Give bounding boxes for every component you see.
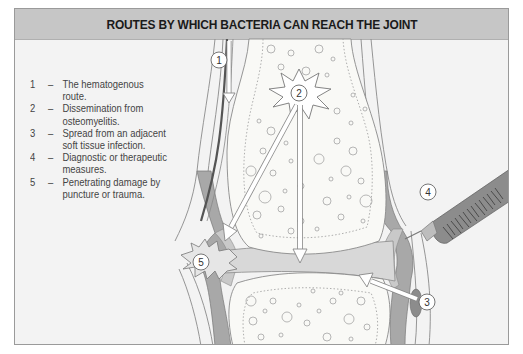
legend-number: 3 (30, 127, 48, 151)
legend-text: Penetrating damage by puncture or trauma… (62, 176, 170, 200)
badge-3-label: 3 (424, 297, 430, 308)
badge-4: 4 (420, 184, 436, 200)
legend-dash: – (48, 102, 62, 126)
legend-number: 5 (30, 176, 48, 200)
legend-item: 1 – The hematogenous route. (30, 78, 170, 102)
badge-4-label: 4 (425, 187, 431, 198)
badge-1: 1 (211, 52, 227, 68)
legend-number: 4 (30, 151, 48, 175)
legend-item: 5 – Penetrating damage by puncture or tr… (30, 176, 170, 200)
legend-dash: – (48, 127, 62, 151)
legend-text: Dissemination from osteomyelitis. (62, 102, 170, 126)
badge-2-label: 2 (296, 88, 302, 99)
badge-5-label: 5 (198, 257, 204, 268)
legend-item: 4 – Diagnostic or therapeutic measures. (30, 151, 170, 175)
badge-1-label: 1 (216, 55, 222, 66)
legend-number: 1 (30, 78, 48, 102)
legend-dash: – (48, 151, 62, 175)
legend: 1 – The hematogenous route. 2 – Dissemin… (30, 78, 170, 200)
syringe-icon (405, 169, 509, 243)
badge-3: 3 (419, 294, 435, 310)
legend-dash: – (48, 176, 62, 200)
legend-number: 2 (30, 102, 48, 126)
diagram-frame: ROUTES BY WHICH BACTERIA CAN REACH THE J… (14, 8, 509, 345)
legend-item: 2 – Dissemination from osteomyelitis. (30, 102, 170, 126)
badge-2: 2 (291, 85, 307, 101)
legend-text: Diagnostic or therapeutic measures. (62, 151, 170, 175)
badge-5: 5 (193, 254, 209, 270)
legend-text: The hematogenous route. (62, 78, 170, 102)
upper-bone (227, 39, 386, 254)
legend-item: 3 – Spread from an adjacent soft tissue … (30, 127, 170, 151)
legend-text: Spread from an adjacent soft tissue infe… (62, 127, 170, 151)
legend-dash: – (48, 78, 62, 102)
